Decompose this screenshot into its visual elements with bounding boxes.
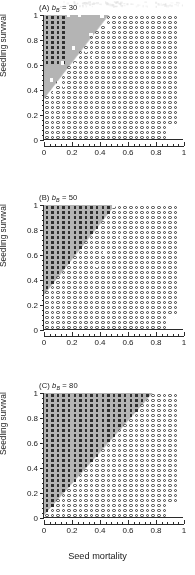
marker-filled-square <box>57 479 60 482</box>
marker-filled-square <box>68 261 71 264</box>
marker-open-circle <box>157 66 161 70</box>
marker-filled-square <box>62 419 65 422</box>
marker-open-circle <box>56 86 60 90</box>
marker-filled-square <box>96 404 99 407</box>
marker-filled-square <box>51 61 54 64</box>
marker-open-circle <box>101 326 105 329</box>
marker-filled-square <box>79 424 82 427</box>
marker-filled-square <box>46 26 49 29</box>
marker-open-circle <box>112 236 116 240</box>
marker-open-circle <box>73 136 77 139</box>
marker-filled-square <box>57 61 60 64</box>
marker-filled-square <box>51 46 54 49</box>
marker-filled-square <box>74 221 77 224</box>
marker-open-circle <box>84 86 88 90</box>
marker-open-circle <box>168 231 172 235</box>
marker-filled-square <box>62 31 65 34</box>
y-tick-major <box>40 15 44 16</box>
marker-filled-square <box>51 256 54 259</box>
marker-open-circle <box>112 479 116 483</box>
marker-open-circle <box>129 81 133 85</box>
marker-filled-square <box>74 449 77 452</box>
marker-white-square <box>100 15 103 18</box>
marker-filled-square <box>118 404 121 407</box>
marker-filled-square <box>74 464 77 467</box>
marker-open-circle <box>157 419 161 423</box>
marker-open-circle <box>56 326 60 329</box>
marker-filled-square <box>96 216 99 219</box>
marker-filled-square <box>57 266 60 269</box>
x-tick-minor <box>139 144 140 147</box>
marker-open-circle <box>168 286 172 290</box>
marker-filled-square <box>74 216 77 219</box>
marker-open-circle <box>129 76 133 80</box>
marker-open-circle <box>112 26 116 30</box>
marker-open-circle <box>84 56 88 60</box>
marker-open-circle <box>73 256 77 260</box>
marker-open-circle <box>84 61 88 65</box>
marker-filled-square <box>51 414 54 417</box>
marker-open-circle <box>112 261 116 265</box>
marker-filled-square <box>51 221 54 224</box>
panel-b-label: (B) bB = 50 <box>39 193 77 203</box>
marker-filled-square <box>46 16 49 19</box>
x-tick-minor <box>66 144 67 147</box>
marker-open-circle <box>73 326 77 329</box>
marker-open-circle <box>84 101 88 105</box>
marker-filled-square <box>68 404 71 407</box>
marker-filled-square <box>46 31 49 34</box>
y-tick-minor <box>42 225 45 226</box>
x-tick-label: 0.8 <box>150 338 161 347</box>
marker-open-circle <box>157 246 161 250</box>
marker-open-circle <box>101 136 105 139</box>
x-tick-minor <box>150 144 151 147</box>
marker-filled-square <box>113 394 116 397</box>
marker-open-circle <box>163 136 167 139</box>
marker-open-circle <box>45 106 49 110</box>
marker-white-square <box>107 26 110 29</box>
marker-open-circle <box>112 444 116 448</box>
marker-filled-square <box>57 236 60 239</box>
marker-filled-square <box>51 444 54 447</box>
panel-b-y-axis-title: Seedling survival <box>0 204 8 267</box>
marker-open-circle <box>168 216 172 220</box>
marker-open-circle <box>56 126 60 130</box>
marker-filled-square <box>51 21 54 24</box>
marker-open-circle <box>84 489 88 493</box>
x-tick-minor <box>162 334 163 337</box>
marker-filled-square <box>102 414 105 417</box>
marker-open-circle <box>107 514 111 517</box>
marker-open-circle <box>140 91 144 95</box>
y-tick-minor <box>42 315 45 316</box>
marker-open-circle <box>84 326 88 329</box>
marker-filled-square <box>113 414 116 417</box>
marker-open-circle <box>73 111 77 115</box>
y-tick-minor <box>42 215 45 216</box>
marker-open-circle <box>140 256 144 260</box>
marker-open-circle <box>168 241 172 245</box>
y-tick-minor <box>42 423 45 424</box>
marker-filled-square <box>90 409 93 412</box>
x-tick-label: 1 <box>182 526 186 535</box>
marker-open-circle <box>129 296 133 300</box>
marker-filled-square <box>68 399 71 402</box>
y-tick-minor <box>42 60 45 61</box>
marker-open-circle <box>129 454 133 458</box>
marker-open-circle <box>101 296 105 300</box>
marker-open-circle <box>140 21 144 25</box>
marker-open-circle <box>112 291 116 295</box>
marker-filled-square <box>124 419 127 422</box>
x-axis-title: Seed mortality <box>0 551 195 561</box>
marker-open-circle <box>129 286 133 290</box>
x-tick-minor <box>83 522 84 525</box>
x-axis-line <box>44 146 184 147</box>
marker-filled-square <box>46 236 49 239</box>
marker-filled-square <box>74 459 77 462</box>
marker-open-circle <box>157 414 161 418</box>
marker-open-circle <box>73 261 77 265</box>
marker-filled-square <box>62 26 65 29</box>
marker-filled-square <box>62 424 65 427</box>
y-tick-label: 0 <box>34 136 38 145</box>
marker-filled-square <box>68 449 71 452</box>
marker-open-circle <box>129 276 133 280</box>
